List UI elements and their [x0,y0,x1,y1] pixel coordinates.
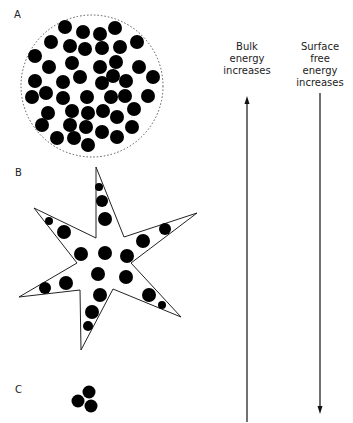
surface-energy-caption: Surface free energy increases [285,41,353,89]
panel-b-star [19,167,197,350]
panel-a-label: A [14,10,21,20]
panel-b-label: B [15,168,22,178]
caption-line: Surface [285,41,353,53]
panel-c-cluster [72,386,98,413]
bulk-energy-caption: Bulk energy increases [212,41,282,77]
bulk-energy-arrow [245,96,250,422]
caption-line: increases [285,77,353,89]
panel-a-sphere [21,15,163,157]
caption-line: free [285,53,353,65]
caption-line: energy [285,65,353,77]
caption-line: increases [212,65,282,77]
surface-energy-arrow [318,93,323,414]
caption-line: energy [212,53,282,65]
panel-c-label: C [15,385,22,395]
caption-line: Bulk [212,41,282,53]
